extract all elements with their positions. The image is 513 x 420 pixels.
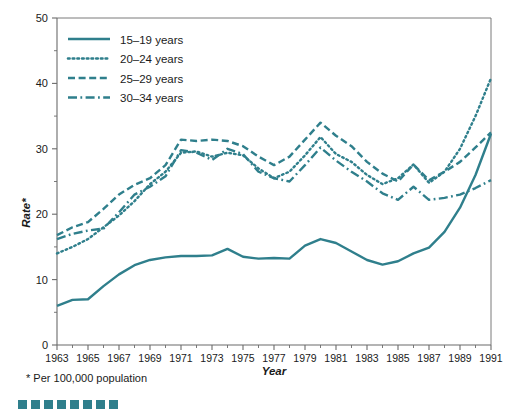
x-tick-label: 1973 — [200, 352, 224, 364]
footnote-text: * Per 100,000 population — [26, 372, 147, 384]
y-tick-label: 50 — [36, 12, 48, 24]
y-tick-label: 10 — [36, 274, 48, 286]
rate-by-age-line-chart: 01020304050 1963196519671969197119731975… — [0, 0, 513, 420]
y-tick-label: 0 — [42, 339, 48, 351]
x-tick-label: 1991 — [479, 352, 503, 364]
x-axis-ticks — [57, 345, 491, 350]
decorative-square-strip — [18, 400, 118, 409]
x-tick-label: 1965 — [76, 352, 100, 364]
y-axis-title: Rate* — [20, 198, 32, 228]
x-tick-label: 1981 — [324, 352, 348, 364]
y-tick-label: 40 — [36, 77, 48, 89]
chart-legend: 15–19 years20–24 years25–29 years30–34 y… — [68, 34, 184, 105]
decor-square — [109, 400, 118, 409]
x-tick-label: 1967 — [107, 352, 131, 364]
x-axis-tick-labels: 1963196519671969197119731975197719791981… — [45, 352, 503, 364]
x-tick-label: 1989 — [448, 352, 472, 364]
chart-figure: 01020304050 1963196519671969197119731975… — [0, 0, 513, 420]
decor-square — [70, 400, 79, 409]
x-axis-title: Year — [262, 365, 287, 377]
x-tick-label: 1977 — [262, 352, 286, 364]
x-tick-label: 1983 — [355, 352, 379, 364]
x-tick-label: 1975 — [231, 352, 255, 364]
y-axis-tick-labels: 01020304050 — [36, 12, 48, 351]
decor-square — [96, 400, 105, 409]
decor-square — [83, 400, 92, 409]
legend-label-4: 30–34 years — [120, 92, 184, 104]
decor-square — [31, 400, 40, 409]
legend-label-1: 15–19 years — [120, 34, 184, 46]
decor-square — [57, 400, 66, 409]
decor-square — [18, 400, 27, 409]
x-tick-label: 1963 — [45, 352, 69, 364]
x-tick-label: 1987 — [417, 352, 441, 364]
chart-axes — [57, 18, 491, 345]
x-tick-label: 1969 — [138, 352, 162, 364]
chart-series-group — [57, 78, 491, 306]
series-line-1 — [57, 134, 491, 306]
legend-label-2: 20–24 years — [120, 53, 184, 65]
y-tick-label: 30 — [36, 143, 48, 155]
decor-square — [44, 400, 53, 409]
x-tick-label: 1985 — [386, 352, 410, 364]
y-axis-ticks — [52, 18, 57, 345]
legend-label-3: 25–29 years — [120, 73, 184, 85]
x-tick-label: 1971 — [169, 352, 193, 364]
y-tick-label: 20 — [36, 208, 48, 220]
x-tick-label: 1979 — [293, 352, 317, 364]
